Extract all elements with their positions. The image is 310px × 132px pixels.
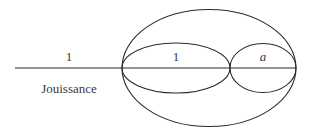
left-segment-label: 1 [66, 49, 73, 64]
inner-left-ellipse-label: 1 [173, 49, 180, 64]
golden-ratio-diagram: 1 Jouissance 1 a [0, 0, 310, 132]
jouissance-caption: Jouissance [41, 81, 97, 96]
inner-right-ellipse-label: a [260, 49, 267, 64]
